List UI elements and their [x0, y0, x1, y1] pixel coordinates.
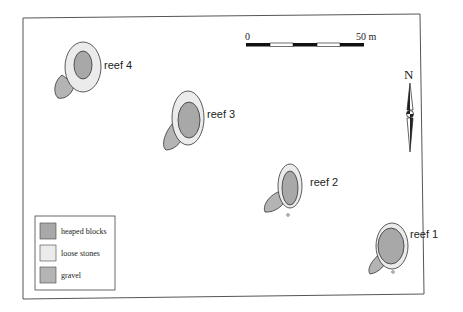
swatch-heaped-blocks — [40, 223, 56, 239]
reef-label: reef 3 — [207, 108, 235, 120]
north-label: N — [404, 67, 414, 82]
scale-start-label: 0 — [245, 31, 250, 42]
heaped-blocks-core — [178, 102, 200, 138]
legend-label: gravel — [61, 271, 82, 280]
reef-label: reef 4 — [104, 59, 132, 71]
legend-label: heaped blocks — [61, 227, 107, 236]
legend: heaped blocks loose stones gravel — [35, 216, 115, 290]
heaped-blocks-core — [378, 228, 404, 264]
reef-label: reef 2 — [310, 176, 338, 188]
heaped-blocks-core — [282, 171, 298, 205]
reef-map: reef 4 reef 3 reef 2 reef 1 0 50 m N — [0, 0, 463, 312]
reef-label: reef 1 — [410, 228, 438, 240]
scale-end-label: 50 m — [356, 31, 377, 42]
heaped-blocks-core — [74, 51, 92, 79]
swatch-loose-stones — [40, 245, 56, 261]
swatch-gravel — [40, 267, 56, 283]
legend-label: loose stones — [61, 249, 100, 258]
